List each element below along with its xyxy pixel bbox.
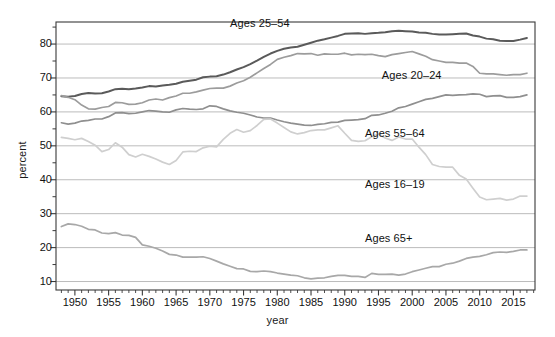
series-label-ages-55-64: Ages 55–64	[365, 127, 425, 139]
y-tick-label: 10	[24, 276, 52, 287]
y-tick-label: 40	[24, 174, 52, 185]
series-label-ages-65: Ages 65+	[365, 232, 413, 244]
y-tick-label: 50	[24, 140, 52, 151]
y-tick-label: 30	[24, 208, 52, 219]
line-chart-svg	[0, 0, 555, 337]
y-tick-label: 80	[24, 38, 52, 49]
series-label-ages-20-24: Ages 20–24	[382, 69, 442, 81]
y-tick-label: 70	[24, 72, 52, 83]
x-axis-title: year	[0, 314, 555, 326]
chart-figure: percent year 8070605040302010 1950195519…	[0, 0, 555, 337]
series-label-ages-16-19: Ages 16–19	[365, 178, 425, 190]
x-tick-label: 2015	[491, 296, 535, 308]
y-axis-title: percent	[16, 100, 28, 220]
y-tick-label: 60	[24, 106, 52, 117]
series-label-ages-25-54: Ages 25–54	[230, 17, 290, 29]
y-tick-label: 20	[24, 242, 52, 253]
